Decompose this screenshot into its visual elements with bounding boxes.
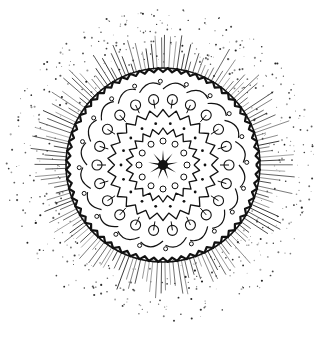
mandala-illustration: [0, 0, 315, 341]
